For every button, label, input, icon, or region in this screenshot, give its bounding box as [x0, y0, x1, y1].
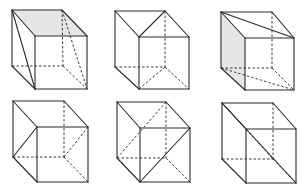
- cube-6: [222, 103, 296, 183]
- visible-edge: [165, 11, 189, 37]
- cube-1: [12, 10, 87, 89]
- cube-2: [115, 11, 189, 89]
- visible-edge: [117, 158, 140, 182]
- visible-edge: [166, 102, 190, 128]
- hidden-edge: [165, 67, 189, 89]
- visible-edge: [117, 102, 140, 128]
- visible-edge: [273, 103, 296, 129]
- visible-diagonal: [139, 11, 165, 37]
- hidden-edge: [166, 158, 190, 182]
- cube-diagram-svg: [0, 0, 303, 190]
- hidden-diagonal: [139, 67, 165, 89]
- cube-5: [117, 102, 190, 182]
- visible-edge: [13, 101, 37, 127]
- visible-edge: [64, 101, 88, 127]
- visible-edge: [115, 67, 139, 89]
- visible-diagonal: [222, 103, 296, 183]
- cube-4: [13, 101, 88, 182]
- visible-edge: [222, 159, 246, 183]
- hidden-edge: [63, 66, 87, 89]
- hidden-diagonal: [64, 127, 88, 157]
- visible-edge: [13, 157, 37, 182]
- visible-diagonal: [13, 127, 37, 157]
- visible-edge: [115, 11, 139, 37]
- hidden-edge: [64, 157, 88, 182]
- cube-diagram-figure: [0, 0, 303, 190]
- cube-3: [221, 12, 294, 90]
